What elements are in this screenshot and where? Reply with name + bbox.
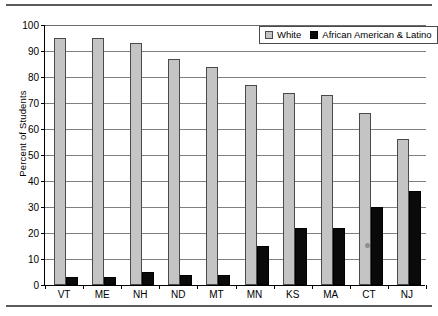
bottom-divider-rule: [6, 305, 432, 307]
legend-item-white: White: [265, 29, 301, 40]
x-tick-label-ks: KS: [273, 289, 313, 300]
plot-area: 0102030405060708090100 VTMENHNDMTMNKSMAC…: [44, 25, 425, 286]
bar-groups: [45, 25, 426, 285]
bar-nd-minority: [180, 275, 192, 285]
y-tick-label: 90: [28, 46, 39, 57]
bar-group: [397, 25, 421, 285]
legend-label-african-american-latino: African American & Latino: [322, 29, 431, 40]
white-swatch-icon: [265, 31, 273, 39]
bar-nj-minority: [409, 191, 421, 285]
bar-nh-minority: [142, 272, 154, 285]
bar-mn-minority: [257, 246, 269, 285]
y-tick-label: 20: [28, 228, 39, 239]
bar-mn-white: [245, 85, 257, 285]
bar-ma-minority: [333, 228, 345, 285]
bar-group: [206, 25, 230, 285]
y-tick-label: 0: [33, 280, 39, 291]
x-tick-label-nh: NH: [120, 289, 160, 300]
bar-group: [130, 25, 154, 285]
y-tick-label: 40: [28, 176, 39, 187]
bar-ks-minority: [295, 228, 307, 285]
scan-artifact: [365, 243, 370, 248]
y-tick-label: 30: [28, 202, 39, 213]
black-swatch-icon: [310, 31, 318, 39]
y-tick-label: 50: [28, 150, 39, 161]
bar-group: [54, 25, 78, 285]
x-tick-label-nj: NJ: [387, 289, 427, 300]
top-divider-rule: [6, 4, 432, 6]
bar-me-white: [92, 38, 104, 285]
bar-ks-white: [283, 93, 295, 285]
x-tick-label-ma: MA: [311, 289, 351, 300]
bar-group: [359, 25, 383, 285]
y-tick-label: 70: [28, 98, 39, 109]
x-tick-label-nd: ND: [158, 289, 198, 300]
bar-group: [283, 25, 307, 285]
bar-me-minority: [104, 277, 116, 285]
bar-group: [321, 25, 345, 285]
x-tick-label-me: ME: [82, 289, 122, 300]
bar-nj-white: [397, 139, 409, 285]
bar-group: [168, 25, 192, 285]
x-axis-tick: [426, 285, 427, 289]
chart-legend: White African American & Latino: [259, 26, 438, 44]
x-tick-label-vt: VT: [44, 289, 84, 300]
legend-item-african-american-latino: African American & Latino: [310, 29, 431, 40]
bar-mt-white: [206, 67, 218, 285]
x-tick-label-mn: MN: [235, 289, 275, 300]
y-axis-title: Percent of Students: [17, 54, 28, 214]
y-tick-label: 10: [28, 254, 39, 265]
bar-ma-white: [321, 95, 333, 285]
y-tick-label: 100: [22, 20, 39, 31]
x-tick-label-ct: CT: [349, 289, 389, 300]
bar-ct-white: [359, 113, 371, 285]
bar-vt-minority: [66, 277, 78, 285]
bar-nh-white: [130, 43, 142, 285]
bar-mt-minority: [218, 275, 230, 285]
chart-figure: Percent of Students 01020304050607080901…: [0, 0, 438, 316]
bar-group: [245, 25, 269, 285]
bar-nd-white: [168, 59, 180, 285]
bar-ct-minority: [371, 207, 383, 285]
legend-label-white: White: [277, 29, 301, 40]
x-tick-label-mt: MT: [196, 289, 236, 300]
y-tick-label: 80: [28, 72, 39, 83]
bar-group: [92, 25, 116, 285]
bar-vt-white: [54, 38, 66, 285]
y-tick-label: 60: [28, 124, 39, 135]
